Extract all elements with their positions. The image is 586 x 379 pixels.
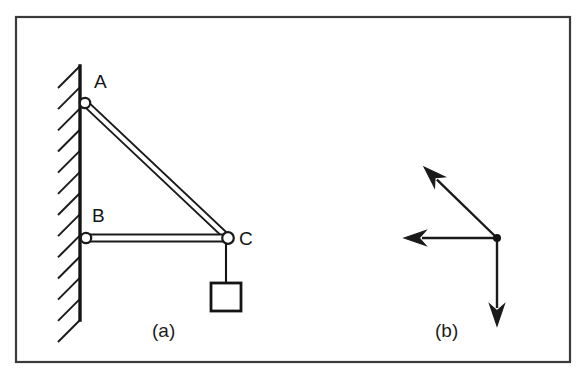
horizontal-strut-member-bc-body — [89, 235, 225, 242]
pin-joint-b — [81, 233, 91, 243]
figure-container: A B C (a) (b) — [0, 0, 586, 379]
pin-joint-a — [80, 98, 90, 108]
caption-a: (a) — [152, 320, 175, 341]
vector-origin-dot — [493, 234, 501, 242]
caption-b: (b) — [435, 320, 458, 341]
hanging-block — [211, 283, 241, 311]
horizontal-strut-member-bc — [89, 235, 225, 242]
statics-figure-svg: A B C (a) (b) — [0, 0, 586, 379]
pin-joint-c — [222, 232, 234, 244]
joint-label-a: A — [94, 71, 107, 92]
joint-label-c: C — [239, 228, 253, 249]
joint-label-b: B — [92, 205, 105, 226]
